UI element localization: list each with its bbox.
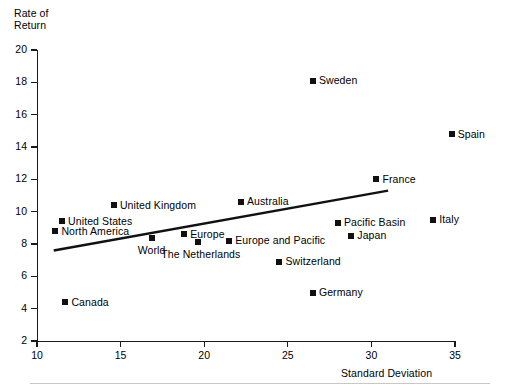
data-point-label: Australia (247, 195, 289, 207)
scatter-chart: Rate ofReturn 2468101214161820 101520253… (0, 0, 506, 388)
data-point (335, 220, 341, 226)
data-point (181, 231, 187, 237)
data-point-label: Canada (71, 296, 108, 308)
data-point (310, 78, 316, 84)
data-point-label: Spain (458, 128, 485, 140)
trend-line (0, 0, 506, 388)
data-point-label: Germany (319, 286, 363, 298)
data-point-label: United Kingdom (120, 199, 196, 211)
data-point (348, 233, 354, 239)
data-point-label: France (382, 173, 415, 185)
x-axis-title: Standard Deviation (341, 367, 432, 379)
data-point-label: Sweden (319, 74, 358, 86)
data-point (52, 228, 58, 234)
data-point (149, 235, 155, 241)
data-point (276, 259, 282, 265)
data-point (195, 239, 201, 245)
data-point-label: Switzerland (285, 255, 340, 267)
data-point (62, 299, 68, 305)
data-point (59, 218, 65, 224)
data-point-label: United States (68, 215, 132, 227)
data-point (111, 202, 117, 208)
data-point-label: Italy (439, 213, 459, 225)
data-point (449, 131, 455, 137)
data-point (226, 238, 232, 244)
data-point (238, 199, 244, 205)
data-point (430, 217, 436, 223)
data-point-label: Europe (190, 228, 224, 240)
footer-divider (30, 383, 490, 384)
data-point-label: Pacific Basin (344, 216, 405, 228)
data-point-label: Japan (357, 229, 386, 241)
data-point-label: The Netherlands (161, 248, 240, 260)
data-point (373, 176, 379, 182)
data-point (310, 290, 316, 296)
data-point-label: Europe and Pacific (235, 234, 325, 246)
